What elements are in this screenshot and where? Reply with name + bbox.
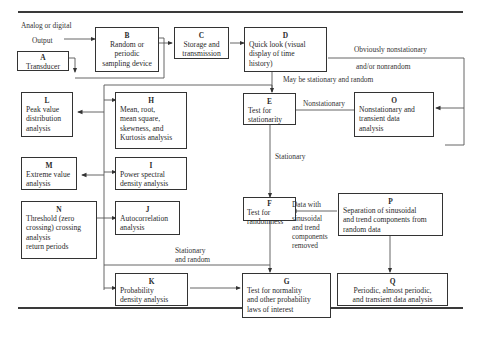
node-k-probability-density: K Probability density analysis bbox=[115, 273, 188, 306]
node-m-extreme-value: M Extreme value analysis bbox=[21, 157, 77, 190]
label-analog-output: Analog or digital bbox=[21, 21, 72, 30]
node-q-periodic: Q Periodic, almost periodic, and transie… bbox=[337, 273, 448, 306]
node-l-peak-value: L Peak value distribution analysis bbox=[21, 92, 73, 137]
node-d-quick-look: D Quick look (visual display of time his… bbox=[244, 27, 327, 72]
node-i-power-spectral: I Power spectral density analysis bbox=[115, 157, 187, 190]
flowchart-diagram: Analog or digital Output A Transducer B … bbox=[0, 0, 481, 343]
label-stationary: Stationary bbox=[275, 152, 305, 161]
label-may-be-stationary: May be stationary and random bbox=[283, 75, 373, 84]
node-a-transducer: A Transducer bbox=[17, 51, 69, 71]
node-b-sampling: B Random or periodic sampling device bbox=[95, 27, 159, 72]
node-o-nonstationary: O Nonstationary and transient data analy… bbox=[354, 92, 434, 137]
node-n-threshold: N Threshold (zero crossing) crossing ana… bbox=[21, 201, 97, 259]
node-p-separation: P Separation of sinusoidal and trend com… bbox=[338, 193, 443, 236]
label-data-with: Data with bbox=[292, 200, 321, 209]
node-f-randomness: F Test for randomness bbox=[243, 197, 296, 221]
label-output: Output bbox=[32, 36, 53, 45]
label-nonstationary: Nonstationary bbox=[303, 99, 345, 108]
node-e-stationarity: E Test for stationarity bbox=[243, 93, 296, 125]
label-stationary-and-random: Stationary and random bbox=[175, 246, 210, 264]
label-obviously-nonstationary: Obviously nonstationary bbox=[354, 45, 427, 54]
node-c-storage: C Storage and transmission bbox=[174, 27, 229, 59]
node-g-normality: G Test for normality and other probabili… bbox=[242, 273, 331, 318]
node-h-mean: H Mean, root, mean square, skewness, and… bbox=[115, 92, 187, 149]
label-components-removed: sinusoidal and trend components removed bbox=[292, 214, 328, 250]
label-and-or-nonrandom: and/or nonrandom bbox=[356, 62, 410, 71]
node-j-autocorrelation: J Autocorrelation analysis bbox=[115, 201, 180, 235]
